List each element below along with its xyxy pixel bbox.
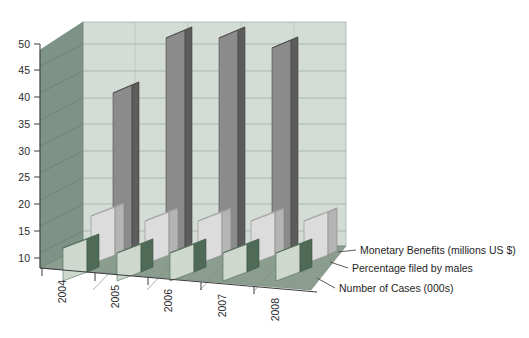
y-tick-label-35: 35 — [18, 118, 30, 130]
y-tick-label-30: 30 — [18, 145, 30, 157]
left-wall — [40, 22, 83, 268]
legend-item-number-of-cases[interactable]: Number of Cases (000s) — [339, 282, 453, 294]
legend-leader-cases — [317, 278, 335, 288]
legend-leader-percentage — [330, 262, 348, 268]
y-axis: 50 45 40 35 30 25 20 15 10 — [18, 38, 40, 268]
y-tick-label-10: 10 — [18, 252, 30, 264]
x-tick-label-2007: 2007 — [216, 294, 228, 318]
legend-item-percentage-males[interactable]: Percentage filed by males — [352, 262, 473, 274]
legend-item-monetary-benefits[interactable]: Monetary Benefits (millions US $) — [360, 244, 516, 256]
legend: Monetary Benefits (millions US $) Percen… — [317, 244, 516, 294]
chart-container: 50 45 40 35 30 25 20 15 10 — [0, 0, 529, 338]
bar-chart-3d: 50 45 40 35 30 25 20 15 10 — [0, 0, 529, 338]
x-tick-label-2004: 2004 — [56, 280, 68, 304]
y-tick-label-20: 20 — [18, 198, 30, 210]
y-tick-label-25: 25 — [18, 171, 30, 183]
x-tick-label-2008: 2008 — [269, 298, 281, 322]
y-tick-label-45: 45 — [18, 64, 30, 76]
y-tick-label-15: 15 — [18, 225, 30, 237]
y-tick-label-40: 40 — [18, 91, 30, 103]
y-tick-label-50: 50 — [18, 38, 30, 50]
x-tick-label-2006: 2006 — [162, 289, 174, 313]
x-tick-label-2005: 2005 — [109, 285, 121, 309]
